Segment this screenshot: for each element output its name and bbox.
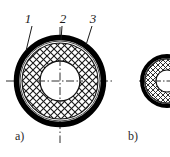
subcaption-label-a: a) — [15, 129, 24, 143]
cable-cross-section-figure: 1 2 3 a) b) — [0, 0, 170, 157]
figure-b-group: b) — [128, 56, 170, 143]
callout-label-1: 1 — [25, 11, 32, 26]
subcaption-label-b: b) — [128, 129, 138, 143]
figure-a-group: 1 2 3 a) — [6, 11, 114, 143]
leader-line-3 — [86, 26, 92, 45]
diagram-canvas: 1 2 3 a) b) — [0, 0, 170, 157]
callout-label-2: 2 — [60, 11, 67, 26]
callout-label-3: 3 — [89, 11, 97, 26]
